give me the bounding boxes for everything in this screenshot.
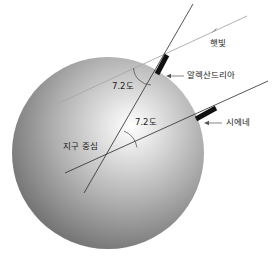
angle-label-center: 7.2도: [135, 118, 157, 127]
eratosthenes-diagram: 햇빛 알렉산드리아 시에네 7.2도 7.2도 지구 중심: [0, 0, 272, 257]
alexandria-label: 알렉산드리아: [187, 71, 235, 80]
diagram-canvas: [0, 0, 272, 257]
angle-label-alexandria: 7.2도: [112, 82, 134, 91]
earth-sphere: [12, 57, 204, 249]
syene-pointer-arrow-icon: [204, 121, 209, 125]
sunlight-label: 햇빛: [210, 39, 226, 48]
syene-obelisk: [196, 108, 216, 119]
earth-center-label: 지구 중심: [63, 142, 98, 151]
syene-label: 시에네: [226, 118, 250, 127]
